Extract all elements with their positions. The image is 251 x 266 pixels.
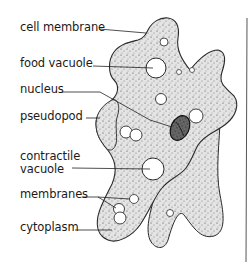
left-pseudopod [96, 100, 119, 150]
small-vacuole [160, 38, 168, 46]
small-vacuole [190, 68, 195, 73]
label-pseudopod: pseudopod [20, 110, 83, 122]
label-contractile: contractile [20, 150, 80, 162]
vacuole [156, 94, 167, 105]
label-cell-membrane: cell membrane [20, 21, 105, 33]
small-vacuole [177, 70, 182, 75]
label-nucleus: nucleus [20, 83, 64, 95]
label-food-vacuole: food vacuole [20, 57, 93, 69]
label-cytoplasm: cytoplasm [20, 221, 79, 233]
vacuole [189, 109, 203, 123]
vacuole [130, 195, 139, 204]
vacuole [114, 212, 126, 224]
label-membranes: membranes [20, 188, 88, 200]
label-vacuole: vacuole [20, 163, 64, 175]
vacuole [130, 129, 142, 141]
border-line [246, 18, 247, 262]
vacuole [167, 210, 174, 217]
